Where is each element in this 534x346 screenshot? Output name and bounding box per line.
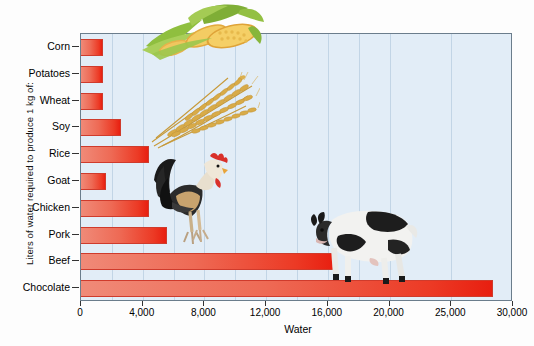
- x-tick-label: 8,000: [191, 307, 216, 318]
- x-tick: [327, 301, 328, 306]
- category-row: Chicken: [0, 199, 534, 216]
- x-tick-label: 16,000: [312, 307, 343, 318]
- category-tick: [72, 287, 79, 288]
- category-row: Corn: [0, 38, 534, 55]
- category-tick: [72, 260, 79, 261]
- x-tick-label: 25,000: [435, 307, 466, 318]
- x-tick: [80, 301, 81, 306]
- x-tick: [389, 301, 390, 306]
- category-tick: [72, 46, 79, 47]
- x-tick: [203, 301, 204, 306]
- x-axis-title-text: Water: [284, 323, 312, 335]
- category-row: Goat: [0, 172, 534, 189]
- category-label-chicken: Chicken: [0, 199, 70, 216]
- x-tick-label: 30,000: [497, 307, 528, 318]
- category-row: Rice: [0, 145, 534, 162]
- y-axis-categories: CornPotatoesWheatSoyRiceGoatChickenPorkB…: [0, 33, 534, 301]
- category-row: Wheat: [0, 92, 534, 109]
- x-tick: [265, 301, 266, 306]
- category-tick: [72, 153, 79, 154]
- category-label-soy: Soy: [0, 118, 70, 135]
- category-tick: [72, 73, 79, 74]
- category-tick: [72, 100, 79, 101]
- category-label-corn: Corn: [0, 38, 70, 55]
- category-label-wheat: Wheat: [0, 92, 70, 109]
- category-tick: [72, 207, 79, 208]
- x-axis-ticks: 04,0008,00012,00016,00020,00025,00030,00…: [0, 301, 534, 315]
- category-label-pork: Pork: [0, 226, 70, 243]
- category-row: Pork: [0, 226, 534, 243]
- category-tick: [72, 126, 79, 127]
- x-axis-title: Water: [0, 323, 534, 335]
- category-row: Potatoes: [0, 65, 534, 82]
- x-tick: [512, 301, 513, 306]
- category-label-beef: Beef: [0, 252, 70, 269]
- category-label-potatoes: Potatoes: [0, 65, 70, 82]
- x-tick: [450, 301, 451, 306]
- x-tick: [142, 301, 143, 306]
- category-row: Beef: [0, 252, 534, 269]
- x-tick-label: 0: [77, 307, 83, 318]
- category-row: Chocolate: [0, 279, 534, 296]
- x-tick-label: 20,000: [373, 307, 404, 318]
- chart-figure: Liters of water required to produce 1 kg…: [0, 0, 534, 346]
- category-label-rice: Rice: [0, 145, 70, 162]
- category-row: Soy: [0, 118, 534, 135]
- category-label-chocolate: Chocolate: [0, 279, 70, 296]
- x-tick-label: 4,000: [129, 307, 154, 318]
- category-label-goat: Goat: [0, 172, 70, 189]
- category-tick: [72, 234, 79, 235]
- category-tick: [72, 180, 79, 181]
- x-tick-label: 12,000: [250, 307, 281, 318]
